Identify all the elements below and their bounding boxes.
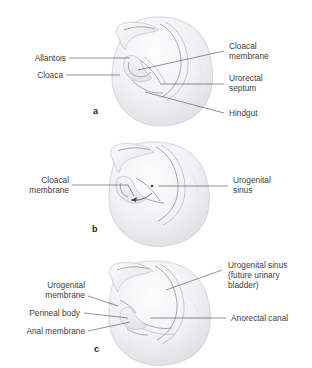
- label-urorectal-septum-line1: Urorectal: [229, 73, 263, 83]
- label-urogenital-sinus-b-line1: Urogenital: [233, 175, 271, 185]
- label-cloaca: Cloaca: [37, 70, 63, 80]
- label-urorectal-septum-line2: septum: [229, 83, 256, 93]
- panel-letter-b: b: [92, 224, 98, 234]
- anatomical-figure: Allantois Cloaca Cloacal membrane Urorec…: [0, 0, 312, 368]
- label-urogenital-sinus-c-line3: bladder): [228, 280, 259, 290]
- label-urogenital-sinus-c-line2: (future urinary: [228, 270, 280, 280]
- label-cloacal-membrane-a-line2: membrane: [229, 51, 269, 61]
- label-anorectal-canal: Anorectal canal: [231, 313, 288, 323]
- panel-c-illustration: [109, 261, 210, 366]
- arrow-origin-dot-b: [151, 185, 154, 188]
- label-cloacal-membrane-a-line1: Cloacal: [229, 41, 257, 51]
- panel-b-illustration: [109, 142, 209, 247]
- label-urogenital-membrane-line2: membrane: [45, 290, 85, 300]
- label-hindgut: Hindgut: [229, 108, 258, 118]
- label-cloacal-membrane-b-line1: Cloacal: [41, 175, 69, 185]
- label-cloacal-membrane-b-line2: membrane: [29, 185, 69, 195]
- label-allantois: Allantois: [35, 53, 66, 63]
- label-perineal-body: Perineal body: [29, 308, 81, 318]
- label-urogenital-membrane-line1: Urogenital: [47, 280, 85, 290]
- panel-letter-c: c: [94, 344, 99, 354]
- figure-svg: Allantois Cloaca Cloacal membrane Urorec…: [0, 0, 312, 368]
- label-urogenital-sinus-c-line1: Urogenital sinus: [228, 260, 288, 270]
- label-anal-membrane: Anal membrane: [26, 326, 85, 336]
- panel-a-illustration: [112, 17, 213, 126]
- label-urogenital-sinus-b-line2: sinus: [233, 185, 252, 195]
